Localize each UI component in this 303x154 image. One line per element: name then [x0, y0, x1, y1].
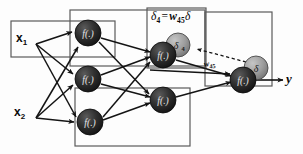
edge-h3-n4b [103, 103, 150, 120]
neuron-n5-label: f(.) [237, 76, 248, 87]
edge-x1-h2 [36, 44, 73, 74]
forward-edges [36, 32, 231, 122]
delta-node-5-label: δ [254, 63, 259, 74]
neuron-n4-label: f(.) [157, 51, 168, 62]
input-label-x1: x1 [16, 32, 27, 47]
neuron-h2: f(.) [75, 66, 101, 92]
edge-h1-n4 [101, 38, 150, 52]
input-label-x2: x2 [14, 106, 25, 121]
weight-label-w45: w45 [203, 59, 215, 70]
neuron-nodes: f(.) f(.) f(.) f(.) f(.) f(.) [75, 20, 256, 135]
neuron-n4b-label: f(.) [157, 96, 168, 107]
neural-network-diagram: δ 4 δ f(.) f(.) f(.) [0, 0, 303, 154]
delta-formula-annotation: δ4=w45δ [151, 11, 191, 25]
output-label-y: y [286, 72, 292, 85]
edge-x2-h3 [36, 118, 74, 122]
neuron-n5-output: f(.) [230, 67, 256, 93]
neuron-h3: f(.) [77, 109, 103, 135]
neuron-n4: f(.) [150, 42, 176, 68]
edge-x2-h1 [36, 47, 78, 118]
edge-x1-h1 [36, 32, 72, 44]
edge-h2-n4b [101, 84, 150, 97]
neuron-h3-label: f(.) [84, 118, 95, 129]
neuron-h1-label: f(.) [82, 29, 93, 40]
neuron-h2-label: f(.) [82, 75, 93, 86]
neuron-h1: f(.) [75, 20, 101, 46]
neuron-n4b: f(.) [150, 87, 176, 113]
edge-n4b-n5 [176, 82, 231, 97]
